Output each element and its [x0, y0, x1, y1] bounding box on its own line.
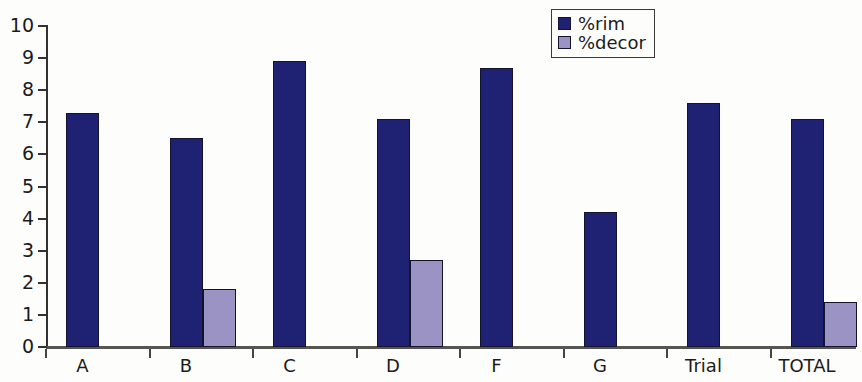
x-axis-tick-label: G — [554, 357, 647, 375]
bar-decor-total — [824, 302, 857, 347]
y-axis-tick — [38, 282, 47, 284]
x-axis-tick-label: B — [140, 357, 233, 375]
y-axis-tick — [38, 250, 47, 252]
x-axis-tick-label: Trial — [657, 357, 750, 375]
y-axis-tick-label: 7 — [4, 112, 34, 131]
y-axis-tick — [38, 218, 47, 220]
y-axis-tick-label: 5 — [4, 177, 34, 196]
legend-swatch-rim-icon — [558, 17, 571, 30]
y-axis-tick — [38, 153, 47, 155]
y-axis-tick — [38, 186, 47, 188]
y-axis-tick-label: 2 — [4, 273, 34, 292]
x-axis-line — [46, 346, 856, 349]
y-axis-tick-label: 6 — [4, 144, 34, 163]
y-axis-tick — [38, 25, 47, 27]
y-axis-tick — [38, 314, 47, 316]
legend-label-decor: %decor — [578, 34, 646, 52]
y-axis-tick — [38, 346, 47, 348]
x-axis-tick-label: D — [347, 357, 440, 375]
y-axis-tick-label: 3 — [4, 241, 34, 260]
legend-swatch-decor-icon — [558, 36, 571, 49]
bar-rim-trial — [687, 103, 720, 347]
x-axis-tick-label: C — [243, 357, 336, 375]
y-axis-tick-label: 10 — [4, 16, 34, 35]
bar-rim-a — [66, 113, 99, 347]
legend-item-decor: %decor — [558, 33, 646, 52]
legend-label-rim: %rim — [578, 15, 625, 33]
x-axis-tick-label: TOTAL — [761, 357, 854, 375]
bar-rim-total — [791, 119, 824, 347]
bar-decor-b — [203, 289, 236, 347]
y-axis-tick — [38, 89, 47, 91]
bar-rim-b — [170, 138, 203, 347]
y-axis-tick-label: 8 — [4, 80, 34, 99]
bar-rim-g — [584, 212, 617, 347]
bar-chart: 109876543210 ABCDFGTrialTOTAL %rim %deco… — [0, 0, 862, 382]
x-axis-tick-label: A — [36, 357, 129, 375]
y-axis-tick-label: 1 — [4, 305, 34, 324]
legend-item-rim: %rim — [558, 14, 646, 33]
bar-decor-d — [410, 260, 443, 347]
y-axis-tick-label: 9 — [4, 48, 34, 67]
y-axis-tick-label: 0 — [4, 337, 34, 356]
x-axis-tick-label: F — [450, 357, 543, 375]
bar-rim-c — [273, 61, 306, 347]
y-axis-tick — [38, 57, 47, 59]
bar-rim-d — [377, 119, 410, 347]
bar-rim-f — [480, 68, 513, 347]
chart-legend: %rim %decor — [551, 9, 655, 58]
y-axis-tick — [38, 121, 47, 123]
y-axis-tick-label: 4 — [4, 209, 34, 228]
